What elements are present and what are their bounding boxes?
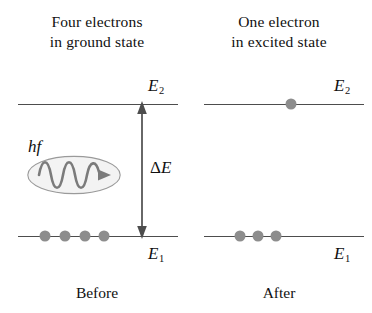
energy-gap-label: ΔE [150, 158, 171, 178]
electron-dot [235, 231, 246, 242]
energy-level-label-e1-after-base: E [334, 244, 344, 263]
energy-gap-label-e: E [161, 158, 171, 177]
electron-dot [99, 231, 110, 242]
energy-level-label-e2-before-sub: 2 [159, 85, 164, 96]
energy-level-label-e1-before: E1 [148, 244, 164, 264]
energy-level-label-e1-before-sub: 1 [159, 253, 164, 264]
energy-level-label-e2-after-base: E [334, 76, 344, 95]
energy-level-label-e1-after: E1 [334, 244, 350, 264]
electron-dot [80, 231, 91, 242]
energy-level-label-e1-after-sub: 1 [345, 253, 350, 264]
electron-dot [60, 231, 71, 242]
electron-dot [286, 99, 297, 110]
energy-level-label-e2-after-sub: 2 [345, 85, 350, 96]
panel-caption-before: Four electrons in ground state [8, 12, 186, 52]
electron-dot [271, 231, 282, 242]
energy-level-label-e2-before-base: E [148, 76, 158, 95]
panel-caption-before-line1: Four electrons [8, 12, 186, 32]
photon-wave-packet-icon [26, 152, 122, 198]
energy-level-label-e1-before-base: E [148, 244, 158, 263]
energy-level-diagram: Four electrons in ground state E2 E1 ΔE … [0, 0, 372, 313]
delta-glyph: Δ [150, 158, 161, 177]
energy-level-line-e2-after [204, 104, 364, 105]
panel-footer-after: After [190, 284, 368, 302]
electron-dot [253, 231, 264, 242]
panel-caption-after-line2: in excited state [190, 32, 368, 52]
electron-dot [40, 231, 51, 242]
panel-caption-after: One electron in excited state [190, 12, 368, 52]
energy-level-label-e2-before: E2 [148, 76, 164, 96]
energy-level-line-e1-after [204, 236, 364, 237]
panel-caption-after-line1: One electron [190, 12, 368, 32]
energy-level-label-e2-after: E2 [334, 76, 350, 96]
panel-footer-before: Before [8, 284, 186, 302]
panel-caption-before-line2: in ground state [8, 32, 186, 52]
